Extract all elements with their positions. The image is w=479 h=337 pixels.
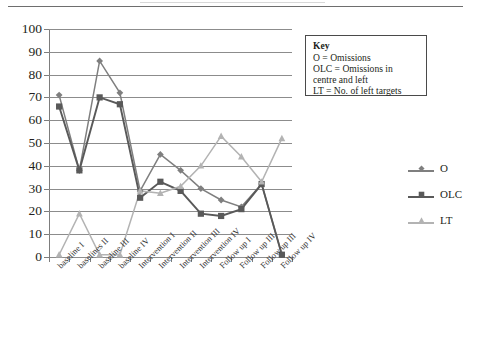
- legend-label-O: O: [440, 162, 448, 175]
- legend-marker-O: [417, 164, 426, 173]
- key-line-1: OLC = Omissions in: [313, 63, 420, 74]
- chart-figure: 0102030405060708090100 baseline Ibaselin…: [0, 0, 479, 337]
- legend-label-OLC: OLC: [440, 188, 462, 201]
- key-line-0: O = Omissions: [313, 52, 420, 63]
- legend-marker-LT: [417, 216, 426, 225]
- legend-label-LT: LT: [440, 214, 452, 227]
- key-box: Key O = Omissions OLC = Omissions in cen…: [305, 35, 427, 96]
- key-line-3: LT = No. of left targets: [313, 85, 420, 96]
- key-line-2: centre and left: [313, 74, 420, 85]
- legend-marker-shape-OLC: [419, 192, 425, 198]
- legend-marker-shape-O: [418, 165, 424, 171]
- legend-item-O: O: [408, 158, 472, 184]
- legend-marker-OLC: [417, 190, 426, 199]
- legend-item-OLC: OLC: [408, 184, 472, 210]
- legend-item-LT: LT: [408, 210, 472, 236]
- legend: OOLCLT: [408, 158, 472, 236]
- legend-marker-shape-LT: [418, 217, 424, 223]
- key-title: Key: [313, 40, 420, 52]
